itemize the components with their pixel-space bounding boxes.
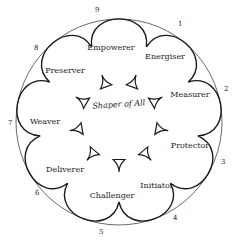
role-label-empowerer: Empowerer	[87, 43, 135, 52]
inner-triangle	[155, 123, 168, 135]
role-label-initiator: Initiator	[140, 181, 173, 190]
role-label-challenger: Challenger	[90, 191, 135, 200]
number-5: 5	[99, 228, 103, 236]
enneagram-diagram: Shaper of All Energiser Measurer Protect…	[0, 0, 238, 244]
inner-triangle	[113, 160, 125, 173]
inner-triangle	[101, 75, 112, 89]
number-9: 9	[95, 6, 99, 14]
number-3: 3	[221, 158, 225, 166]
inner-triangle	[139, 147, 152, 160]
inner-triangle	[126, 75, 137, 89]
role-label-weaver: Weaver	[30, 117, 60, 126]
inner-triangle	[70, 123, 83, 135]
inner-triangle	[149, 97, 163, 108]
inner-triangle	[87, 147, 100, 160]
center-label: Shaper of All	[92, 98, 146, 111]
number-8: 8	[34, 44, 38, 52]
number-6: 6	[35, 189, 40, 197]
role-label-protector: Protector	[171, 141, 209, 150]
role-label-measurer: Measurer	[170, 90, 210, 99]
role-label-energiser: Energiser	[145, 52, 185, 61]
inner-triangle	[76, 97, 90, 108]
number-7: 7	[8, 119, 12, 127]
number-2: 2	[224, 85, 228, 93]
number-4: 4	[173, 214, 178, 222]
inner-triangles	[70, 75, 168, 172]
role-label-deliverer: Deliverer	[46, 165, 84, 174]
role-label-preserver: Preserver	[45, 66, 85, 75]
number-1: 1	[178, 20, 182, 28]
